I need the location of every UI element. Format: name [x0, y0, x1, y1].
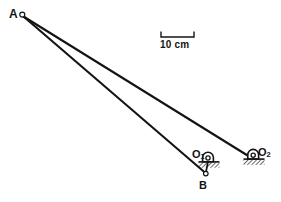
support-o1-hatch: [199, 162, 220, 167]
link-a-o2: [24, 17, 251, 158]
label-support-o2: O2: [258, 147, 271, 159]
label-support-o1: O1: [192, 149, 205, 161]
label-support-o1-subscript: 1: [201, 152, 205, 161]
linkage-diagram: [0, 0, 281, 202]
label-joint-b: B: [199, 180, 207, 191]
support-o2-hatch: [244, 160, 265, 165]
label-joint-a: A: [9, 8, 17, 20]
label-support-o2-subscript: 2: [267, 150, 271, 159]
joint-a-pivot: [20, 12, 25, 17]
scale-bar: [161, 32, 194, 38]
label-support-o2-base: O: [258, 146, 267, 158]
link-group: [24, 17, 251, 174]
label-support-o1-base: O: [192, 148, 201, 160]
support-o1-pin: [206, 156, 210, 160]
scale-bar-bracket: [161, 32, 194, 38]
joint-b-pivot: [204, 171, 209, 176]
scale-bar-label: 10 cm: [160, 40, 189, 50]
support-o2-pin: [251, 153, 255, 157]
